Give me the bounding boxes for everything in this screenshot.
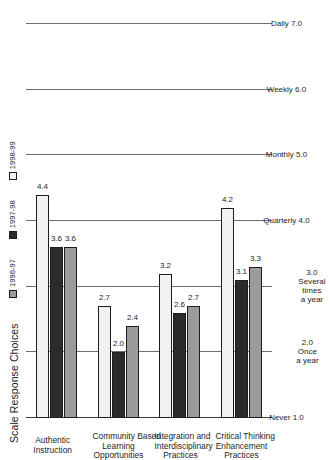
value-label-critical-1998-99: 4.2 xyxy=(222,195,233,204)
scale-label-1.0: Never 1.0 xyxy=(256,414,316,423)
legend-label-1997-98: 1997-98 xyxy=(8,200,17,228)
bar-community-1997-98 xyxy=(112,352,125,418)
value-label-integration-1996-97: 2.7 xyxy=(188,293,199,302)
bar-authentic-1998-99 xyxy=(36,195,49,418)
plot-area: Daily 7.0Weekly 6.0Monthly 5.0Quarterly … xyxy=(26,0,272,454)
value-label-community-1997-98: 2.0 xyxy=(113,339,124,348)
scale-label-4.0: Quarterly 4.0 xyxy=(250,217,322,226)
bar-critical-1997-98 xyxy=(235,280,248,418)
legend-label-1998-99: 1998-99 xyxy=(8,141,17,169)
scale-label-2.0: 2.0Oncea year xyxy=(284,339,330,366)
scale-label-7.0: Daily 7.0 xyxy=(253,20,319,29)
legend-entry-1996-97: 1996-97 xyxy=(8,259,17,298)
category-label-1: Integration andInterdisciplinaryPractice… xyxy=(154,432,206,460)
bar-integration-1998-99 xyxy=(159,274,172,418)
legend-entry-1998-99: 1998-99 xyxy=(8,141,17,180)
category-label-0: Critical ThinkingEnhancementPractices xyxy=(216,432,268,460)
value-label-critical-1997-98: 3.1 xyxy=(236,267,247,276)
bar-authentic-1996-97 xyxy=(64,247,77,418)
bar-integration-1997-98 xyxy=(173,313,186,418)
scale-label-3.0: 3.0Severaltimesa year xyxy=(289,269,330,305)
category-label-3: AuthenticInstruction xyxy=(26,436,78,455)
gridline-6.0 xyxy=(26,89,272,90)
chart-title: Scale Response Choices xyxy=(8,323,20,443)
value-label-community-1996-97: 2.4 xyxy=(127,313,138,322)
value-label-community-1998-99: 2.7 xyxy=(99,293,110,302)
value-label-authentic-1996-97: 3.6 xyxy=(65,234,76,243)
chart-legend: 1996-97 1997-98 1998-99 xyxy=(8,141,17,298)
value-label-authentic-1998-99: 4.4 xyxy=(37,182,48,191)
legend-swatch-1996-97 xyxy=(9,290,17,298)
bar-community-1998-99 xyxy=(98,306,111,418)
legend-swatch-1998-99 xyxy=(9,172,17,180)
bar-community-1996-97 xyxy=(126,326,139,418)
value-label-critical-1996-97: 3.3 xyxy=(250,254,261,263)
scale-label-5.0: Monthly 5.0 xyxy=(252,151,320,160)
gridline-7.0 xyxy=(26,23,272,24)
bar-critical-1996-97 xyxy=(249,267,262,418)
legend-label-1996-97: 1996-97 xyxy=(8,259,17,287)
gridline-4.0 xyxy=(26,220,272,221)
category-label-2: Community BasedLearningOpportunities xyxy=(93,432,145,460)
value-label-integration-1997-98: 2.6 xyxy=(174,300,185,309)
bar-authentic-1997-98 xyxy=(50,247,63,418)
bar-integration-1996-97 xyxy=(187,306,200,418)
legend-entry-1997-98: 1997-98 xyxy=(8,200,17,239)
scale-label-6.0: Weekly 6.0 xyxy=(253,85,319,94)
value-label-integration-1998-99: 3.2 xyxy=(160,260,171,269)
legend-swatch-1997-98 xyxy=(9,231,17,239)
bar-critical-1998-99 xyxy=(221,208,234,418)
gridline-5.0 xyxy=(26,154,272,155)
value-label-authentic-1997-98: 3.6 xyxy=(51,234,62,243)
